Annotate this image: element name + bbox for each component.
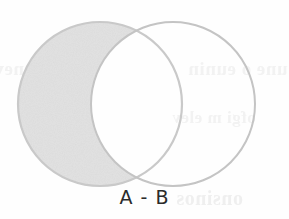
diagram-caption-label: A - B bbox=[0, 186, 289, 208]
venn-diagram-figure: esldenev une o eunin ofgi m elev onsinos bbox=[0, 0, 289, 219]
right-circle-outline[interactable] bbox=[91, 22, 255, 186]
